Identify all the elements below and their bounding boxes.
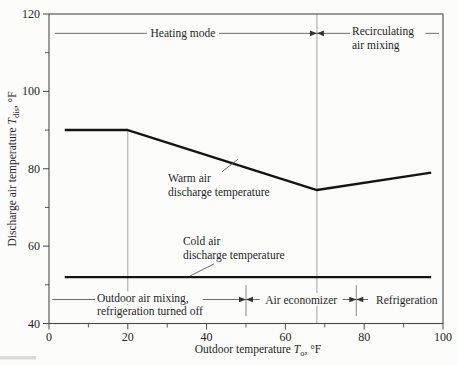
y-tick-label-100: 100 [22,84,40,98]
heating-mode-arrowhead-icon [310,31,317,37]
warm-air-label: Warm air [168,172,211,184]
air-economizer-arrowhead-icon [246,297,253,303]
scan-artifact [0,356,36,360]
x-axis-title: Outdoor temperature To, °F [195,343,321,358]
x-tick-label-0: 0 [46,330,52,344]
x-tick-label-80: 80 [358,330,370,344]
y-axis-title: Discharge air temperature Tdis, °F [6,91,21,246]
x-tick-label-60: 60 [279,330,291,344]
y-tick-label-120: 120 [22,7,40,21]
cold-air-label: Cold air [183,235,221,247]
refrigeration-arrowhead-icon [356,297,363,303]
outdoor-air-mixing-refrigeration-off-label: Outdoor air mixing, [97,292,189,305]
air-economizer-label: Air economizer [265,294,337,306]
y-tick-label-40: 40 [28,317,40,331]
cold-air-label-leader-line [190,264,214,276]
refrigeration-label: Refrigeration [376,294,438,307]
warm-air-discharge-temperature-line [65,130,431,190]
figure-container: Heating modeRecirculatingair mixingOutdo… [0,0,458,365]
heating-mode-label: Heating mode [151,27,216,40]
outdoor-air-mixing-refrigeration-off-label: refrigeration turned off [97,305,203,318]
recirculating-air-mixing-label: air mixing [352,39,400,52]
x-tick-label-40: 40 [201,330,213,344]
cold-air-label: discharge temperature [183,249,285,262]
recirculating-air-mixing-label: Recirculating [352,25,414,38]
recirculating-air-mixing-arrowhead-icon [317,31,324,37]
outdoor-air-mixing-refrigeration-off-arrowhead-icon [239,297,246,303]
air-economizer-arrowhead-icon [349,297,356,303]
discharge-air-temperature-chart: Heating modeRecirculatingair mixingOutdo… [0,0,458,365]
x-tick-label-20: 20 [122,330,134,344]
x-tick-label-100: 100 [434,330,452,344]
warm-air-label: discharge temperature [168,186,270,199]
y-tick-label-80: 80 [28,162,40,176]
y-tick-label-60: 60 [28,239,40,253]
